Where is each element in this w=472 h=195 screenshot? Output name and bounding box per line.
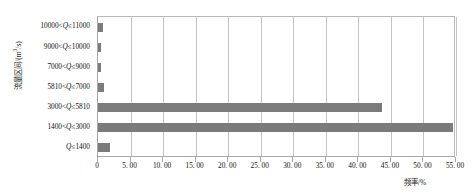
bar-row[interactable] bbox=[98, 37, 101, 57]
bar[interactable] bbox=[98, 103, 382, 112]
bar-row[interactable] bbox=[98, 57, 101, 77]
bar-row[interactable] bbox=[98, 118, 453, 138]
bar[interactable] bbox=[98, 143, 110, 152]
bar[interactable] bbox=[98, 23, 103, 32]
bar[interactable] bbox=[98, 83, 104, 92]
x-axis-tick-label: 40. 00 bbox=[348, 162, 366, 169]
y-axis-tick-labels: 10000<Q≤110009000<Q≤100007000<Q≤90005810… bbox=[12, 16, 94, 157]
bar[interactable] bbox=[98, 123, 453, 132]
bars bbox=[98, 17, 454, 156]
bar-row[interactable] bbox=[98, 77, 104, 97]
x-axis-tick-label: 25. 00 bbox=[251, 162, 269, 169]
x-axis-tick-label: 55. 00 bbox=[446, 162, 464, 169]
y-axis-tick-label: 3000<Q≤5810 bbox=[12, 97, 94, 117]
y-axis-tick-label: 1400<Q≤3000 bbox=[12, 117, 94, 137]
y-axis-tick-label: 9000<Q≤10000 bbox=[12, 36, 94, 56]
x-axis-tick-label: 20. 00 bbox=[218, 162, 236, 169]
x-axis-tick-label: 30. 00 bbox=[283, 162, 301, 169]
x-axis-tick-label: 35. 00 bbox=[316, 162, 334, 169]
y-axis-tick-label: 5810<Q≤7000 bbox=[12, 76, 94, 96]
x-axis: 05. 0010. 0015. 0020. 0025. 0030. 0035. … bbox=[97, 157, 455, 177]
x-axis-tick-label: 0 bbox=[95, 162, 99, 169]
x-axis-title: 频率/% bbox=[404, 176, 426, 187]
x-axis-tick-label: 50. 00 bbox=[413, 162, 431, 169]
x-axis-tick-label: 10. 00 bbox=[153, 162, 171, 169]
x-axis-tick-label: 45. 00 bbox=[381, 162, 399, 169]
bar-row[interactable] bbox=[98, 17, 103, 37]
gridline bbox=[456, 17, 457, 156]
bar[interactable] bbox=[98, 63, 101, 72]
bar-row[interactable] bbox=[98, 98, 382, 118]
y-axis-tick-label: 10000<Q≤11000 bbox=[12, 16, 94, 36]
plot-area bbox=[97, 16, 455, 157]
bar[interactable] bbox=[98, 43, 101, 52]
chart-figure: 流量区间/(m3/s) 10000<Q≤110009000<Q≤10000700… bbox=[0, 0, 472, 195]
x-axis-tick-label: 5. 00 bbox=[122, 162, 137, 169]
x-axis-tick-label: 15. 00 bbox=[186, 162, 204, 169]
y-axis-tick-label: Q≤1400 bbox=[12, 137, 94, 157]
bar-row[interactable] bbox=[98, 138, 110, 158]
y-axis-tick-label: 7000<Q≤9000 bbox=[12, 56, 94, 76]
